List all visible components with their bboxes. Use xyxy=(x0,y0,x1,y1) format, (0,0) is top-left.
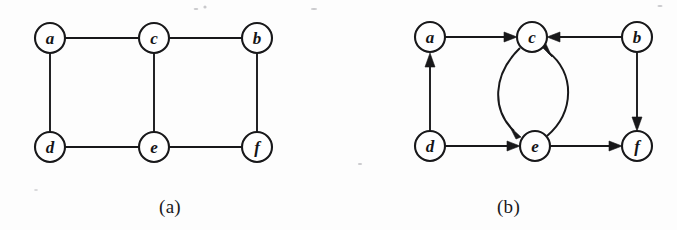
arrowhead-c-e xyxy=(510,127,521,139)
edge-e-to-f xyxy=(550,141,622,151)
node-label-c: c xyxy=(528,28,536,47)
node-label-b: b xyxy=(253,29,262,48)
node-b[interactable]: b xyxy=(622,22,652,52)
scan-speck xyxy=(657,5,662,7)
node-label-a: a xyxy=(46,29,55,48)
edge-b-to-c xyxy=(547,32,622,42)
node-label-b: b xyxy=(633,28,642,47)
node-a[interactable]: a xyxy=(35,23,65,53)
arrowhead-a-c xyxy=(504,32,517,42)
scan-speck xyxy=(203,5,206,8)
node-label-e: e xyxy=(150,138,158,157)
node-f[interactable]: f xyxy=(622,131,652,161)
edge-group xyxy=(50,38,257,147)
node-d[interactable]: d xyxy=(415,131,445,161)
node-label-c: c xyxy=(150,29,158,48)
node-e[interactable]: e xyxy=(520,131,550,161)
panel-undirected-graph: a c b d e xyxy=(0,0,340,230)
directed-graph-svg: a c b d e xyxy=(340,0,677,200)
node-a[interactable]: a xyxy=(415,22,445,52)
arrowhead-b-f xyxy=(632,117,642,131)
edge-d-to-e xyxy=(445,141,520,151)
arrowhead-e-f xyxy=(609,141,622,151)
node-c[interactable]: c xyxy=(517,22,547,52)
figure-canvas: a c b d e xyxy=(0,0,677,230)
edge-c-to-e xyxy=(498,48,521,139)
edge-b-to-f xyxy=(632,52,642,131)
node-f[interactable]: f xyxy=(242,132,272,162)
scan-speck xyxy=(194,8,199,10)
node-b[interactable]: b xyxy=(242,23,272,53)
edge-e-to-c xyxy=(541,44,568,136)
node-label-d: d xyxy=(46,138,55,157)
arrowhead-b-c xyxy=(547,32,560,42)
scan-speck xyxy=(358,163,362,165)
node-label-e: e xyxy=(531,137,539,156)
edge-a-to-c xyxy=(445,32,517,42)
node-e[interactable]: e xyxy=(139,132,169,162)
node-d[interactable]: d xyxy=(35,132,65,162)
scan-speck xyxy=(34,189,38,191)
scan-speck xyxy=(311,8,317,10)
edge-arc-c-e xyxy=(498,48,520,131)
edge-arc-e-c xyxy=(547,52,568,136)
node-c[interactable]: c xyxy=(139,23,169,53)
node-group: a c b d e xyxy=(415,22,652,161)
panel-directed-graph: a c b d e xyxy=(340,0,677,230)
panel-a-caption: (a) xyxy=(0,196,340,218)
arrowhead-d-a xyxy=(425,53,435,67)
arrowhead-d-e xyxy=(507,141,520,151)
node-label-d: d xyxy=(426,137,435,156)
undirected-graph-svg: a c b d e xyxy=(0,0,340,200)
node-label-a: a xyxy=(426,28,435,47)
edge-d-to-a xyxy=(425,53,435,131)
panel-b-caption: (b) xyxy=(340,196,677,218)
